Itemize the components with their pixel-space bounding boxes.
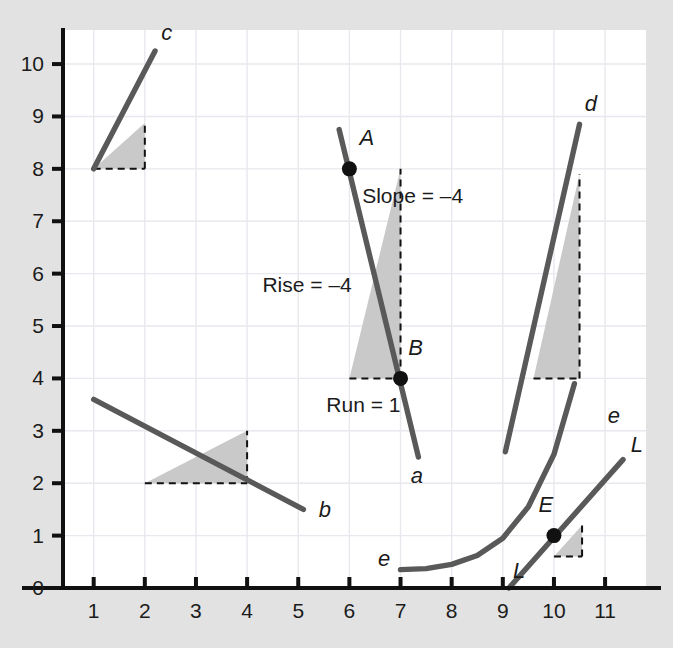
x-tick-label: 6 [344, 599, 356, 622]
y-tick-label: 1 [32, 524, 44, 547]
x-tick-label: 1 [88, 599, 100, 622]
series-label-a: a [411, 463, 423, 488]
data-point-label-A: A [358, 125, 375, 150]
rise-annotation: Rise = –4 [262, 273, 352, 296]
x-tick-label: 8 [446, 599, 458, 622]
series-label-b: b [319, 497, 331, 522]
x-tick-label: 7 [395, 599, 407, 622]
series-label-L-bottom: L [513, 558, 525, 583]
figure-container: cbadeeLLABESlope = –4Rise = –4Run = 1012… [0, 0, 673, 648]
y-tick-label: 0 [32, 576, 44, 599]
x-tick-label: 9 [497, 599, 509, 622]
y-tick-label: 7 [32, 209, 44, 232]
y-tick-label: 4 [32, 366, 44, 389]
x-tick-label: 5 [292, 599, 304, 622]
slope-chart: cbadeeLLABESlope = –4Rise = –4Run = 1012… [0, 0, 673, 648]
x-tick-label: 3 [190, 599, 202, 622]
series-label-c: c [161, 20, 172, 45]
series-label-e-right: e [608, 403, 620, 428]
series-label-L-top: L [631, 432, 643, 457]
y-tick-label: 3 [32, 419, 44, 442]
x-tick-label: 11 [594, 599, 616, 622]
y-tick-label: 8 [32, 157, 44, 180]
series-label-d: d [585, 91, 598, 116]
x-tick-label: 10 [542, 599, 565, 622]
x-tick-label: 4 [241, 599, 253, 622]
data-point-B [393, 371, 408, 386]
x-tick-label: 2 [139, 599, 151, 622]
y-tick-label: 10 [21, 52, 44, 75]
slope-annotation: Slope = –4 [362, 184, 463, 207]
run-annotation: Run = 1 [326, 393, 400, 416]
data-point-A [342, 161, 357, 176]
series-label-e-left: e [378, 546, 390, 571]
y-tick-label: 9 [32, 104, 44, 127]
y-tick-label: 6 [32, 262, 44, 285]
data-point-E [546, 528, 561, 543]
y-tick-label: 5 [32, 314, 44, 337]
data-point-label-E: E [539, 492, 554, 517]
data-point-label-B: B [408, 335, 423, 360]
y-tick-label: 2 [32, 471, 44, 494]
